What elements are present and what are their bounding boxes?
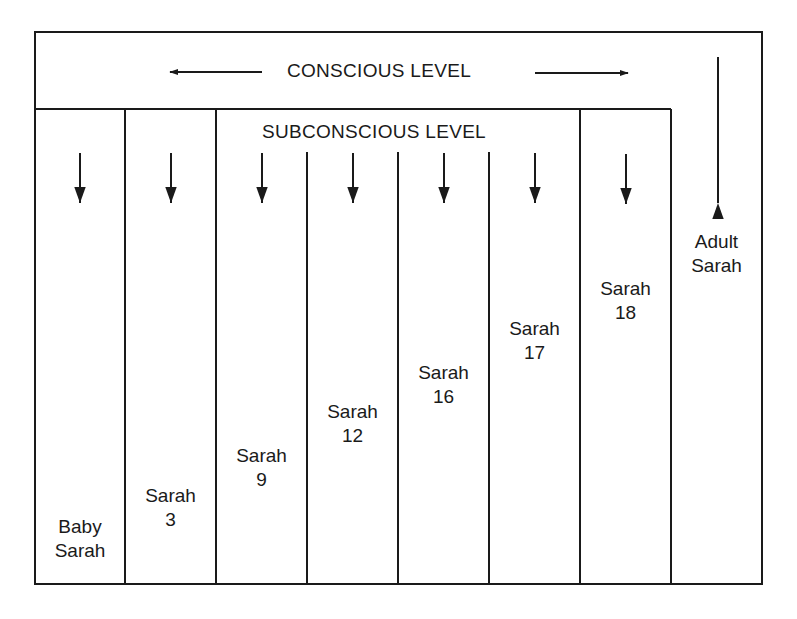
column-label-sarah-18: Sarah 18 — [580, 277, 671, 325]
column-label-sarah-17: Sarah 17 — [489, 317, 580, 365]
column-label-adult-sarah: Adult Sarah — [671, 230, 762, 278]
column-label-sarah-12: Sarah 12 — [307, 400, 398, 448]
conscious-subconscious-diagram: CONSCIOUS LEVEL SUBCONSCIOUS LEVEL Baby … — [0, 0, 797, 619]
subconscious-level-label: SUBCONSCIOUS LEVEL — [262, 121, 486, 143]
column-label-baby-sarah: Baby Sarah — [35, 515, 125, 563]
column-label-sarah-16: Sarah 16 — [398, 361, 489, 409]
conscious-level-label: CONSCIOUS LEVEL — [287, 60, 471, 82]
column-label-sarah-9: Sarah 9 — [216, 444, 307, 492]
column-label-sarah-3: Sarah 3 — [125, 484, 216, 532]
